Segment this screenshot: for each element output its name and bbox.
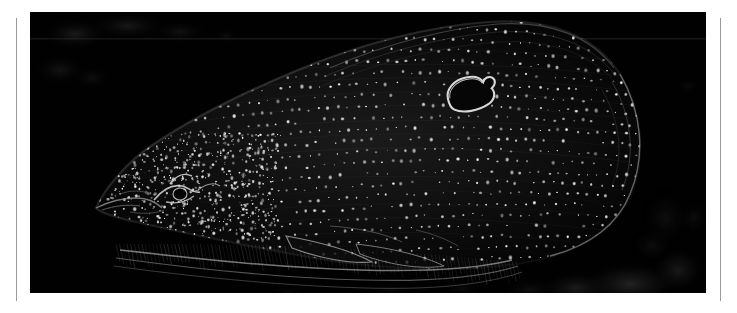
left-guide-rule (16, 18, 17, 301)
fish-micrograph-image (30, 12, 706, 293)
page-root (0, 0, 737, 313)
fish-illustration (30, 12, 706, 293)
right-guide-rule (720, 18, 721, 301)
